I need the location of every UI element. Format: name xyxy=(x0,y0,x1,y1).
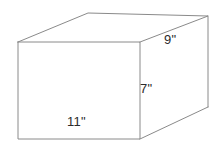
box-svg xyxy=(0,0,220,150)
box-diagram: 9" 7" 11" xyxy=(0,0,220,150)
width-label: 11" xyxy=(67,115,86,128)
depth-label: 9" xyxy=(164,33,176,46)
height-label: 7" xyxy=(140,82,152,95)
